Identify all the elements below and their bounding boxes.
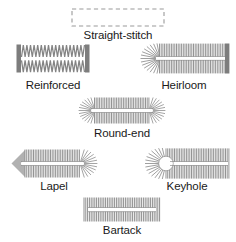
buttonhole-types-diagram: Straight-stitch Reinforced [0,0,236,242]
figure-reinforced [16,44,90,73]
reinforced-shape [16,44,90,73]
label-reinforced: Reinforced [0,79,106,92]
label-bartack: Bartack [78,224,166,237]
keyhole-shape [144,148,230,179]
heirloom-shape [138,43,230,74]
label-heirloom: Heirloom [138,79,230,92]
figure-lapel [10,149,98,178]
label-keyhole: Keyhole [144,180,230,193]
label-lapel: Lapel [10,180,98,193]
figure-heirloom [138,43,230,74]
label-round-end: Round-end [72,127,172,140]
straight-stitch-shape [71,8,165,27]
figure-round-end [78,97,166,124]
figure-bartack [83,197,161,222]
figure-keyhole [144,148,230,179]
figure-straight-stitch [71,8,165,27]
label-straight-stitch: Straight-stitch [64,29,172,42]
round-end-shape [78,97,166,124]
lapel-shape [10,149,98,178]
bartack-shape [83,197,161,222]
